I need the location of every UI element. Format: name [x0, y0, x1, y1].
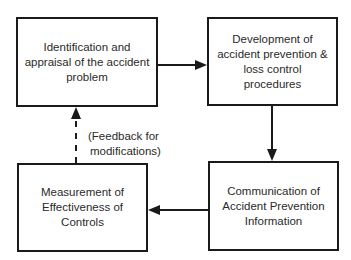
arrows-layer [0, 0, 351, 260]
feedback-label: (Feedback for modifications) [88, 129, 161, 159]
arrow-identification-to-development [158, 60, 207, 70]
arrow-development-to-communication [267, 106, 277, 161]
feedback-label-line1: (Feedback for [88, 129, 161, 144]
arrow-feedback-dashed [71, 107, 81, 163]
feedback-label-line2: modifications) [88, 144, 161, 159]
arrow-communication-to-measurement [148, 205, 208, 215]
